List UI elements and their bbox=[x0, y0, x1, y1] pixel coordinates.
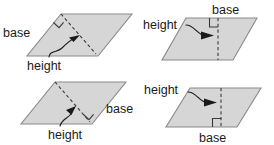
figure-canvas: base height base height base bbox=[0, 0, 274, 145]
base-label-top-left: base bbox=[3, 26, 30, 40]
parallelogram-shape-bottom-right bbox=[166, 88, 261, 127]
height-label-bottom-right: height bbox=[144, 83, 179, 97]
panel-top-left: base height bbox=[3, 14, 132, 73]
base-label-bottom-right: base bbox=[199, 131, 226, 145]
base-label-bottom-left: base bbox=[106, 102, 133, 116]
panel-top-right: base height bbox=[143, 3, 257, 60]
panel-bottom-left: base height bbox=[21, 82, 133, 142]
height-label-bottom-left: height bbox=[48, 128, 83, 142]
base-label-top-right: base bbox=[212, 3, 239, 17]
parallelogram-shape-top-left bbox=[27, 14, 132, 56]
height-label-top-left: height bbox=[27, 59, 62, 73]
parallelogram-figure: base height base height base bbox=[0, 0, 274, 145]
panel-bottom-right: height base bbox=[144, 83, 261, 145]
height-label-top-right: height bbox=[143, 18, 178, 32]
